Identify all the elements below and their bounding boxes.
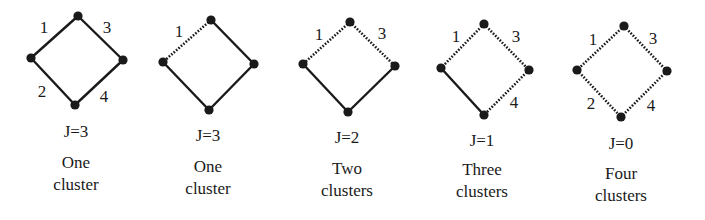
vertex-top [73,11,82,20]
vertex-top [206,15,215,24]
edge-4-solid [348,66,395,112]
edge-label: 4 [510,94,519,111]
cluster-caption: Onecluster [53,152,98,196]
vertex-right [662,66,671,75]
caption-line-1: Three [456,159,508,181]
vertex-right [390,61,399,70]
edge-label: 3 [378,25,387,42]
vertex-left [436,63,445,72]
caption-line-2: clusters [321,180,373,202]
j-value-label: J=3 [64,122,89,142]
j-value-label: J=3 [196,126,221,146]
vertex-bottom [479,110,488,119]
edge-3-solid [211,20,254,64]
edge-3-dotted [624,26,667,71]
cluster-caption: Fourclusters [595,163,647,207]
caption-line-1: One [53,152,98,174]
edge-3-solid [78,16,123,60]
edge-label: 1 [315,26,324,43]
edge-label: 1 [40,19,49,36]
vertex-left [298,59,307,68]
j-value-label: J=2 [335,128,360,148]
cluster-caption: Threeclusters [456,159,508,203]
edge-1-solid [31,16,78,58]
edge-2-solid [441,68,484,115]
edge-1-dotted [577,26,624,70]
edge-3-dotted [350,22,395,66]
edge-4-dotted [621,71,667,117]
edge-2-solid [163,62,209,110]
j-value-label: J=0 [609,134,634,154]
edge-2-solid [303,64,348,112]
vertex-bottom [70,100,79,109]
vertex-right [524,65,533,74]
edge-label: 3 [512,28,521,45]
edge-label: 1 [589,31,598,48]
edge-2-dotted [577,70,621,117]
caption-line-1: Two [321,158,373,180]
vertex-left [572,65,581,74]
vertex-top [619,21,628,30]
edge-label: 4 [100,88,109,105]
edge-4-dotted [484,70,529,115]
edge-3-dotted [484,24,529,70]
caption-line-1: Four [595,163,647,185]
edge-label: 4 [647,97,656,114]
edge-1-dotted [303,22,350,64]
j-value-label: J=1 [470,131,495,151]
edge-label: 1 [175,23,184,40]
edge-label: 2 [38,83,47,100]
caption-line-2: clusters [595,185,647,207]
caption-line-2: cluster [53,174,98,196]
edge-label: 2 [587,95,596,112]
cluster-panel-2 [158,15,258,114]
caption-line-1: One [185,156,230,178]
edge-1-dotted [163,20,211,62]
caption-line-2: cluster [185,178,230,200]
cluster-caption: Onecluster [185,156,230,200]
edge-label: 3 [103,19,112,36]
vertex-left [158,57,167,66]
vertex-left [26,53,35,62]
edge-1-dotted [441,24,484,68]
vertex-top [345,17,354,26]
edge-4-solid [209,64,254,110]
caption-line-2: clusters [456,181,508,203]
vertex-bottom [616,112,625,121]
vertex-bottom [343,107,352,116]
vertex-top [479,19,488,28]
vertex-bottom [204,105,213,114]
edge-label: 1 [452,28,461,45]
vertex-right [118,55,127,64]
edge-label: 3 [649,30,658,47]
vertex-right [249,59,258,68]
cluster-caption: Twoclusters [321,158,373,202]
